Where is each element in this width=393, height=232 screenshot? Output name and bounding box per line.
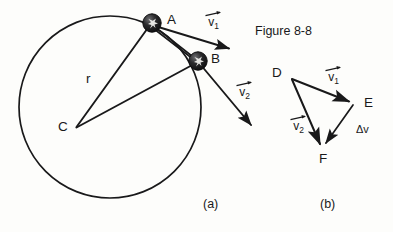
point-label-b: B xyxy=(211,52,220,66)
point-label-e: E xyxy=(364,96,373,110)
vector-label-v1-panel-b: v1 xyxy=(325,66,342,86)
panel-b-caption: (b) xyxy=(320,198,335,211)
panel-a-group xyxy=(19,14,251,198)
ball-marker-a xyxy=(143,14,161,32)
vector-label-v1-panel-a: v1 xyxy=(205,11,222,31)
radius-line-cb xyxy=(77,63,197,128)
vector-symbol-v2-panel-b: v2 xyxy=(290,120,307,135)
vector-delta-v-arrow xyxy=(326,105,353,143)
chord-ab-outer xyxy=(153,26,197,61)
vector-symbol-v2-panel-a: v2 xyxy=(236,86,253,101)
point-label-a: A xyxy=(167,13,176,27)
vector-symbol-v1-panel-a: v1 xyxy=(205,16,222,31)
radius-label: r xyxy=(86,72,91,86)
ball-marker-b xyxy=(189,52,207,70)
delta-v-label: Δv xyxy=(356,124,369,135)
panel-a-caption: (a) xyxy=(203,198,218,211)
vector-label-v2-panel-b: v2 xyxy=(290,115,307,135)
point-label-c: C xyxy=(58,120,68,134)
point-label-f: F xyxy=(319,152,327,166)
vector-symbol-v1-panel-b: v1 xyxy=(325,71,342,86)
figure-caption: Figure 8-8 xyxy=(255,25,312,38)
vector-label-v2-panel-a: v2 xyxy=(236,81,253,101)
figure-8-8: Figure 8-8 A B C r v1 v2 D E F v1 v2 Δv xyxy=(0,0,393,232)
point-label-d: D xyxy=(272,66,282,80)
